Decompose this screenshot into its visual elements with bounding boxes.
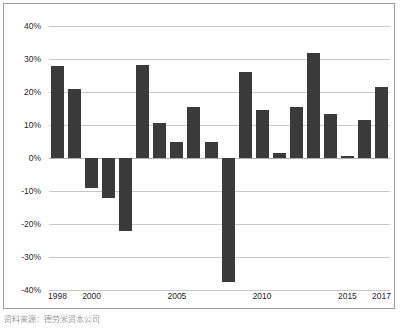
x-axis-label: 2000 (82, 292, 101, 301)
bar-2006 (187, 107, 200, 159)
bar-2007 (205, 142, 218, 158)
y-axis-label: 0% (1, 154, 41, 163)
source-caption: 资料来源：德劳米资本公司 (4, 315, 334, 325)
x-axis-label: 2010 (253, 292, 272, 301)
x-axis-label: 1998 (48, 292, 67, 301)
x-axis-ticks: 199820002005201020152017 (49, 292, 390, 308)
bar-1998 (51, 66, 64, 158)
bar-2015 (341, 156, 354, 158)
y-axis-label: -20% (1, 220, 41, 229)
x-axis-label: 2005 (167, 292, 186, 301)
bar-2008 (222, 158, 235, 282)
x-axis-label: 2015 (338, 292, 357, 301)
bar-2012 (290, 107, 303, 159)
bar-2011 (273, 153, 286, 158)
y-axis-label: -40% (1, 286, 41, 295)
y-axis-label: -30% (1, 253, 41, 262)
bar-1999 (68, 89, 81, 158)
y-axis-label: 30% (1, 55, 41, 64)
bar-2000 (85, 158, 98, 188)
bar-2014 (324, 114, 337, 158)
bar-series (49, 26, 390, 290)
bar-2002 (119, 158, 132, 231)
bar-2016 (358, 120, 371, 158)
bar-2013 (307, 53, 320, 158)
bar-2004 (153, 123, 166, 158)
y-axis-label: 40% (1, 22, 41, 31)
plot-area: 40%30%20%10%0%-10%-20%-30%-40% (49, 26, 390, 290)
bar-2010 (256, 110, 269, 158)
chart-frame: 40%30%20%10%0%-10%-20%-30%-40% 199820002… (3, 3, 395, 309)
bar-2017 (375, 87, 388, 158)
bar-2005 (170, 142, 183, 158)
chart-screenshot: 40%30%20%10%0%-10%-20%-30%-40% 199820002… (0, 0, 401, 330)
x-axis-label: 2017 (372, 292, 391, 301)
bar-2001 (102, 158, 115, 198)
y-axis-label: 10% (1, 121, 41, 130)
y-axis-label: -10% (1, 187, 41, 196)
bar-2009 (239, 72, 252, 158)
y-axis-label: 20% (1, 88, 41, 97)
bar-2003 (136, 65, 149, 158)
